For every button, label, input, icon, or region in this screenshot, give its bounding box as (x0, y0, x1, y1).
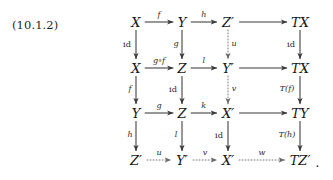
arrow-label-v-c3-r3r4: id (215, 131, 223, 139)
node-r4c3: X′ (222, 154, 234, 167)
arrow-label-v-c3-r2r3: v (232, 85, 237, 93)
node-r2c2: Z (177, 62, 186, 75)
node-r1c1: X (131, 16, 140, 29)
arrow-label-v-c4-r2r3: T(f) (280, 85, 295, 93)
arrow-label-h-r4-c3c4: w (258, 149, 265, 157)
node-r2c4: TX (291, 62, 309, 75)
arrow-label-v-c4-r3r4: T(h) (279, 131, 296, 139)
node-r1c2: Y (178, 16, 187, 29)
arrow-label-v-c4-r1r2: id (287, 39, 295, 47)
arrow-label-h-r2-c2c3: l (203, 57, 206, 65)
arrow-label-v-c2-r3r4: l (175, 131, 178, 139)
figure-page: (10.1.2) XYZ′TXXZY′TXYZX′TYZ′Y′X′TZ′. fh… (0, 0, 333, 180)
arrow-label-h-r3-c2c3: k (201, 102, 206, 110)
node-r4c2: Y′ (176, 154, 188, 167)
node-r3c3: X′ (222, 107, 234, 120)
node-r3c4: TY (291, 107, 308, 120)
arrow-label-h-r1-c2c3: h (201, 11, 206, 19)
arrow-label-v-c2-r2r3: id (169, 85, 177, 93)
arrow-label-h-r3-c1c2: g (156, 102, 161, 110)
arrow-label-v-c1-r1r2: id (123, 39, 131, 47)
node-r2c1: X (131, 62, 140, 75)
node-r4c1: Z′ (130, 154, 142, 167)
node-r2c3: Y′ (222, 62, 234, 75)
arrow-label-v-c3-r1r2: u (231, 40, 236, 48)
node-r4c4: TZ′ (290, 154, 311, 167)
arrow-label-h-r4-c1c2: u (156, 149, 161, 157)
node-r1c3: Z′ (222, 16, 234, 29)
arrow-label-v-c2-r1r2: g (173, 40, 178, 48)
arrow-label-h-r2-c1c2: g∘f (153, 57, 165, 65)
arrow-label-h-r4-c2c3: v (203, 149, 208, 157)
node-r3c1: Y (132, 107, 141, 120)
trailing-period: . (315, 156, 319, 170)
node-r3c2: Z (177, 107, 186, 120)
arrow-label-h-r1-c1c2: f (158, 11, 161, 19)
arrow-label-v-c1-r3r4: h (127, 131, 132, 139)
arrow-label-v-c1-r2r3: f (129, 85, 132, 93)
node-r1c4: TX (291, 16, 309, 29)
